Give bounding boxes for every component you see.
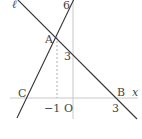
label-three-x: 3 (112, 102, 119, 115)
label-three-y: 3 (64, 50, 71, 63)
label-x: x (132, 86, 139, 99)
label-six: 6 (63, 0, 70, 12)
label-a: A (44, 33, 54, 46)
coordinate-diagram: ℓ 6 A 3 C B x −1 O 3 (0, 0, 142, 139)
label-ell: ℓ (12, 0, 17, 11)
label-b: B (117, 86, 125, 99)
label-neg-one: −1 (44, 102, 60, 115)
label-c: C (18, 87, 26, 100)
label-origin: O (64, 102, 73, 115)
